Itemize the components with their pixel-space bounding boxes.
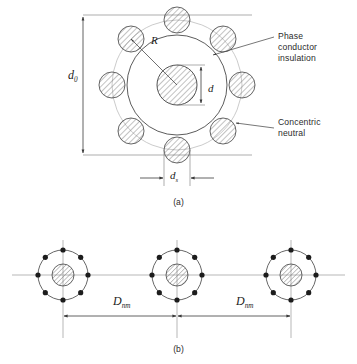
neutral-dot <box>60 297 65 302</box>
neutral-dot <box>174 297 179 302</box>
neutral-dot <box>313 272 318 277</box>
label-conductor-diameter: d <box>208 82 214 94</box>
neutral-dot <box>174 247 179 252</box>
phase-conductor <box>280 264 302 286</box>
caption-panel-b: (b) <box>0 344 357 354</box>
neutral-dot <box>85 272 90 277</box>
neutral-dot <box>43 290 48 295</box>
callout-concentric-neutral: Concentric neutral <box>278 117 321 139</box>
label-strand-diameter: ds <box>170 169 178 183</box>
neutral-dot <box>78 290 83 295</box>
neutral-dot <box>192 255 197 260</box>
neutral-strand <box>210 118 236 144</box>
neutral-strand <box>210 26 236 52</box>
neutral-dot <box>306 255 311 260</box>
label-outer-diameter: d0 <box>68 68 78 84</box>
panel-b-drawing <box>12 240 345 338</box>
neutral-dot <box>43 255 48 260</box>
figure-root: d0 R d ds Phase conductor insulation Con… <box>0 0 357 364</box>
leader-concentric-neutral <box>236 123 274 128</box>
phase-conductor <box>52 264 74 286</box>
neutral-dot <box>192 290 197 295</box>
neutral-strand <box>118 118 144 144</box>
neutral-dot <box>157 255 162 260</box>
neutral-dot <box>263 272 268 277</box>
neutral-strand <box>164 137 190 163</box>
neutral-dot <box>288 247 293 252</box>
neutral-dot <box>78 255 83 260</box>
caption-panel-a: (a) <box>0 197 357 207</box>
neutral-dot <box>271 290 276 295</box>
phase-conductor <box>166 264 188 286</box>
neutral-dot <box>35 272 40 277</box>
label-spacing-left: Dnm <box>113 294 130 310</box>
label-spacing-right: Dnm <box>236 294 253 310</box>
neutral-dot <box>157 290 162 295</box>
neutral-dot <box>288 297 293 302</box>
neutral-strand <box>99 72 125 98</box>
neutral-dot <box>271 255 276 260</box>
panel-a-drawing <box>83 7 274 186</box>
neutral-strand <box>164 7 190 33</box>
neutral-dot <box>60 247 65 252</box>
neutral-dot <box>306 290 311 295</box>
callout-phase-conductor-insulation: Phase conductor insulation <box>278 31 317 65</box>
neutral-strand <box>229 72 255 98</box>
neutral-dot <box>199 272 204 277</box>
label-neutral-radius: R <box>151 34 158 46</box>
neutral-dot <box>149 272 154 277</box>
